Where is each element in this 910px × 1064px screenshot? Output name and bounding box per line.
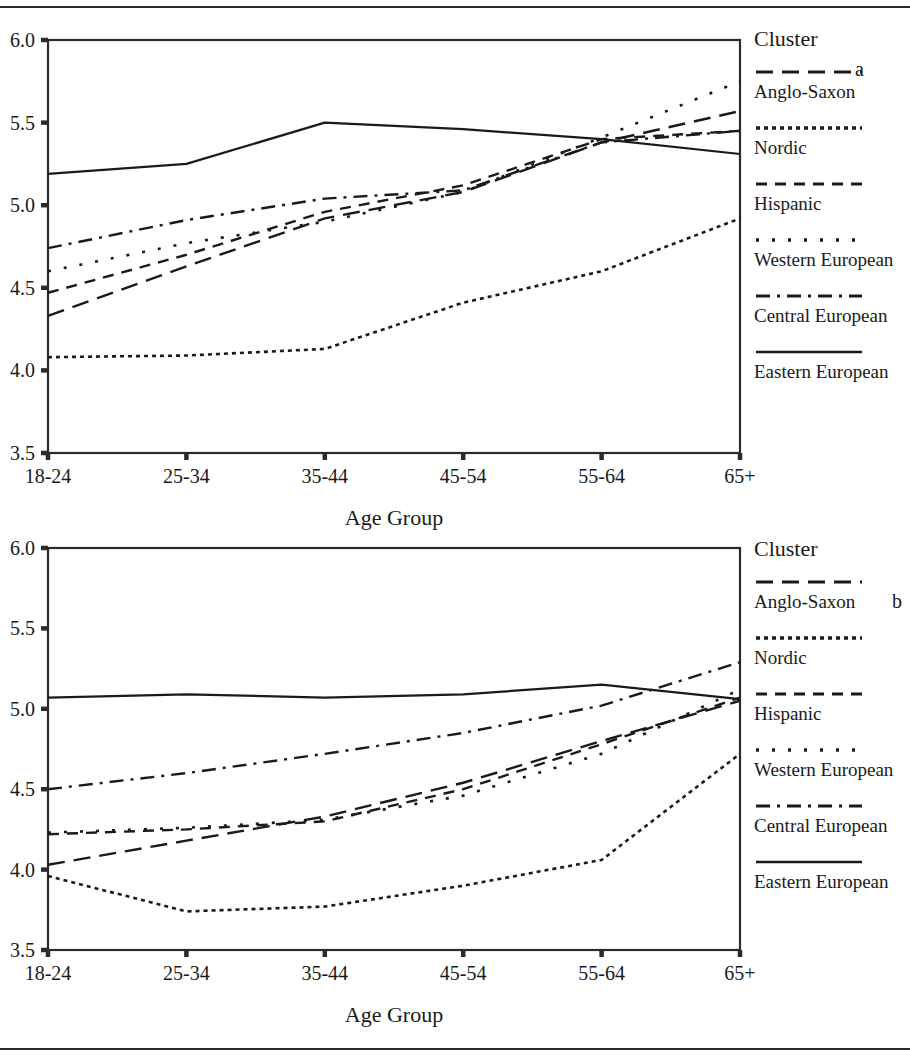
x-axis-title: Age Group xyxy=(345,1002,443,1027)
legend-label-western-european: Western European xyxy=(754,759,894,780)
legend-title: Cluster xyxy=(754,536,818,561)
legend-label-hispanic: Hispanic xyxy=(754,193,822,214)
legend-label-central-european: Central European xyxy=(754,815,888,836)
y-tick-label: 6.0 xyxy=(10,537,35,559)
x-tick-label: 55-64 xyxy=(578,962,625,984)
chart-panel-a: 3.54.04.55.05.56.018-2425-3435-4445-5455… xyxy=(0,20,910,530)
series-line-hispanic xyxy=(48,131,740,293)
x-tick-label: 65+ xyxy=(724,465,755,487)
y-tick-label: 3.5 xyxy=(10,939,35,961)
panel-letter: a xyxy=(855,58,864,80)
legend-title: Cluster xyxy=(754,26,818,51)
series-line-western-european xyxy=(48,81,740,271)
y-tick-label: 5.5 xyxy=(10,617,35,639)
y-tick-label: 4.5 xyxy=(10,778,35,800)
figure-page: 3.54.04.55.05.56.018-2425-3435-4445-5455… xyxy=(0,0,910,1064)
y-tick-label: 4.0 xyxy=(10,359,35,381)
series-line-nordic xyxy=(48,218,740,357)
x-tick-label: 45-54 xyxy=(440,962,487,984)
x-tick-label: 25-34 xyxy=(163,465,210,487)
legend-label-nordic: Nordic xyxy=(754,647,807,668)
chart-panel-b: 3.54.04.55.05.56.018-2425-3435-4445-5455… xyxy=(0,530,910,1045)
x-tick-label: 65+ xyxy=(724,962,755,984)
series-line-eastern-european xyxy=(48,123,740,174)
line-chart-a: 3.54.04.55.05.56.018-2425-3435-4445-5455… xyxy=(0,20,910,530)
legend-label-eastern-european: Eastern European xyxy=(754,361,889,382)
legend-label-eastern-european: Eastern European xyxy=(754,871,889,892)
x-tick-label: 25-34 xyxy=(163,962,210,984)
x-tick-label: 55-64 xyxy=(578,465,625,487)
series-line-eastern-european xyxy=(48,685,740,699)
bottom-divider-rule xyxy=(0,1048,910,1050)
y-tick-label: 5.0 xyxy=(10,194,35,216)
x-tick-label: 45-54 xyxy=(440,465,487,487)
series-line-anglo-saxon xyxy=(48,701,740,865)
series-line-central-european xyxy=(48,662,740,789)
y-tick-label: 4.0 xyxy=(10,859,35,881)
x-tick-label: 35-44 xyxy=(301,962,348,984)
series-line-central-european xyxy=(48,131,740,248)
x-axis-title: Age Group xyxy=(345,505,443,530)
legend-label-anglo-saxon: Anglo-Saxon xyxy=(754,591,856,612)
legend-label-central-european: Central European xyxy=(754,305,888,326)
top-divider-rule xyxy=(0,6,910,8)
x-tick-label: 18-24 xyxy=(25,962,72,984)
series-line-hispanic xyxy=(48,698,740,835)
y-tick-label: 4.5 xyxy=(10,277,35,299)
x-tick-label: 18-24 xyxy=(25,465,72,487)
x-tick-label: 35-44 xyxy=(301,465,348,487)
panel-letter: b xyxy=(892,590,902,612)
y-tick-label: 6.0 xyxy=(10,29,35,51)
legend-label-anglo-saxon: Anglo-Saxon xyxy=(754,81,856,102)
legend-label-nordic: Nordic xyxy=(754,137,807,158)
series-line-western-european xyxy=(48,690,740,833)
y-tick-label: 5.5 xyxy=(10,112,35,134)
y-tick-label: 3.5 xyxy=(10,442,35,464)
legend-label-hispanic: Hispanic xyxy=(754,703,822,724)
legend-label-western-european: Western European xyxy=(754,249,894,270)
line-chart-b: 3.54.04.55.05.56.018-2425-3435-4445-5455… xyxy=(0,530,910,1045)
y-tick-label: 5.0 xyxy=(10,698,35,720)
